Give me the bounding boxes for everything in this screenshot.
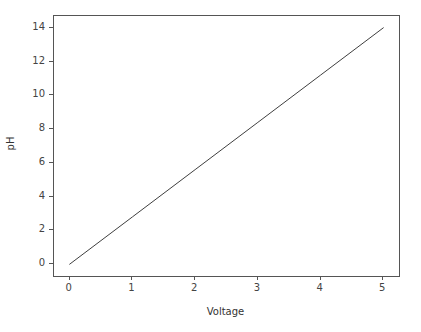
y-tick-label: 12 [9,55,45,67]
y-tick-mark [49,61,53,62]
y-tick-mark [49,162,53,163]
y-tick-mark [49,229,53,230]
y-tick-mark [49,196,53,197]
chart-figure: 012345 02468101214 Voltage pH [0,0,421,332]
x-tick-mark [257,276,258,280]
x-axis-label: Voltage [53,306,398,317]
y-tick-label: 2 [9,223,45,235]
y-tick-label: 14 [9,21,45,33]
y-tick-mark [49,128,53,129]
x-tick-label: 5 [362,282,402,294]
plot-canvas [54,16,399,276]
x-tick-label: 1 [111,282,151,294]
x-tick-mark [194,276,195,280]
x-tick-label: 3 [237,282,277,294]
x-tick-mark [69,276,70,280]
y-tick-label: 4 [9,190,45,202]
plot-axes-area [53,15,400,277]
y-axis-label: pH [5,104,16,184]
y-tick-mark [49,27,53,28]
x-tick-label: 2 [174,282,214,294]
y-tick-label: 10 [9,88,45,100]
y-tick-mark [49,94,53,95]
y-tick-label: 0 [9,257,45,269]
y-tick-mark [49,263,53,264]
x-tick-label: 0 [49,282,89,294]
data-line-ph-vs-voltage [70,28,384,264]
x-tick-mark [320,276,321,280]
x-tick-mark [382,276,383,280]
x-tick-label: 4 [300,282,340,294]
x-tick-mark [131,276,132,280]
